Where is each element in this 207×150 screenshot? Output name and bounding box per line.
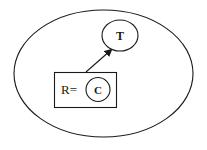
box-r: R= C — [55, 73, 117, 108]
box-r-label: R= — [61, 82, 77, 97]
edge-r-to-t — [86, 50, 111, 72]
node-t: T — [102, 20, 138, 51]
arrow-icon — [86, 50, 111, 72]
node-c-label: C — [94, 84, 102, 96]
diagram-canvas: T R= C — [0, 0, 207, 150]
node-t-label: T — [116, 29, 124, 43]
